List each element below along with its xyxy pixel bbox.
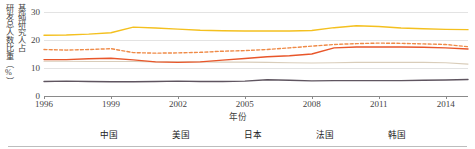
y-tick-label-20: 20 — [31, 35, 40, 45]
series-line-法国 — [44, 26, 468, 36]
chart-figure: 基础研究人占 研发总人数比重（%） 0102030 19961999200220… — [0, 0, 475, 149]
legend-label-中国: 中国 — [100, 128, 118, 140]
series-line-美国 — [44, 43, 468, 53]
series-line-中国 — [44, 79, 468, 81]
x-tick-label-2008: 2008 — [303, 99, 321, 109]
x-tick-label-1996: 1996 — [35, 99, 53, 109]
x-tick-label-2014: 2014 — [437, 99, 455, 109]
legend-item-美国[interactable]: 美国 — [142, 128, 190, 140]
legend-item-日本[interactable]: 日本 — [214, 128, 262, 140]
x-tick-label-2005: 2005 — [236, 99, 254, 109]
legend-item-法国[interactable]: 法国 — [286, 128, 334, 140]
legend-label-美国: 美国 — [172, 128, 190, 140]
x-axis-ticks: 1996199920022005200820112014 — [44, 96, 468, 110]
x-tick-label-1999: 1999 — [102, 99, 120, 109]
x-tick-label-2002: 2002 — [169, 99, 187, 109]
y-tick-label-10: 10 — [31, 63, 40, 73]
chart-legend: 中国美国日本法国韩国 — [0, 128, 475, 140]
y-axis-title-col2: 研发总人数比重（%） — [2, 4, 14, 85]
x-tick-label-2011: 2011 — [370, 99, 388, 109]
legend-label-韩国: 韩国 — [388, 128, 406, 140]
legend-item-中国[interactable]: 中国 — [70, 128, 118, 140]
y-tick-label-30: 30 — [31, 7, 40, 17]
x-axis-title: 年份 — [0, 110, 475, 122]
y-axis-title: 基础研究人占 研发总人数比重（%） — [0, 4, 26, 112]
legend-label-法国: 法国 — [316, 128, 334, 140]
bottom-divider — [8, 146, 467, 147]
series-line-日本 — [44, 61, 468, 64]
legend-item-韩国[interactable]: 韩国 — [358, 128, 406, 140]
series-layer — [44, 12, 468, 96]
plot-area: 0102030 — [44, 12, 468, 96]
legend-label-日本: 日本 — [244, 128, 262, 140]
y-axis-title-col1: 基础研究人占 — [14, 4, 26, 52]
